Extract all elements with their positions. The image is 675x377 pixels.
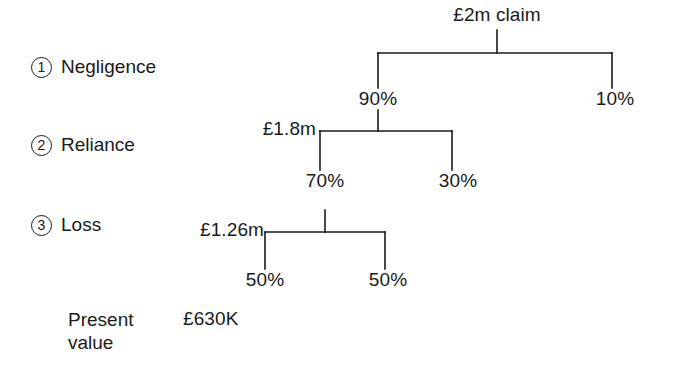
- level1-failure-probability: 10%: [596, 88, 634, 110]
- stage-number-3: 3: [31, 215, 52, 236]
- root-node-label: £2m claim: [453, 4, 540, 26]
- stage-row-negligence: 1 Negligence: [31, 56, 156, 78]
- level3-success-probability: 50%: [246, 269, 284, 291]
- stage-row-loss: 3 Loss: [31, 214, 101, 236]
- level2-expected-value: £1.26m: [200, 219, 264, 241]
- present-value-label: Present value: [68, 308, 133, 354]
- stage-number-2: 2: [31, 135, 52, 156]
- decision-tree-diagram: 1 Negligence 2 Reliance 3 Loss £2m claim…: [0, 0, 675, 377]
- level2-failure-probability: 30%: [439, 170, 477, 192]
- stage-row-reliance: 2 Reliance: [31, 134, 135, 156]
- level1-expected-value: £1.8m: [263, 118, 316, 140]
- level1-success-probability: 90%: [359, 88, 397, 110]
- stage-label-negligence: Negligence: [61, 56, 156, 78]
- present-value-amount: £630K: [183, 308, 238, 330]
- level3-failure-probability: 50%: [369, 269, 407, 291]
- present-value-label-line2: value: [68, 331, 133, 354]
- present-value-label-line1: Present: [68, 308, 133, 331]
- level2-success-probability: 70%: [306, 170, 344, 192]
- stage-number-1: 1: [31, 57, 52, 78]
- stage-label-reliance: Reliance: [61, 134, 135, 156]
- stage-label-loss: Loss: [61, 214, 101, 236]
